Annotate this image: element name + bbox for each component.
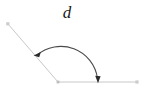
- diagonal-ray-endpoint-marker: [6, 22, 9, 25]
- horizontal-ray-endpoint-marker: [135, 80, 138, 83]
- vertex-marker: [57, 81, 60, 84]
- angle-diagram-svg: d: [0, 0, 142, 99]
- angle-label: d: [63, 3, 72, 22]
- diagonal-ray: [8, 24, 58, 82]
- diagram-canvas: d: [0, 0, 142, 99]
- angle-arc: [37, 46, 98, 78]
